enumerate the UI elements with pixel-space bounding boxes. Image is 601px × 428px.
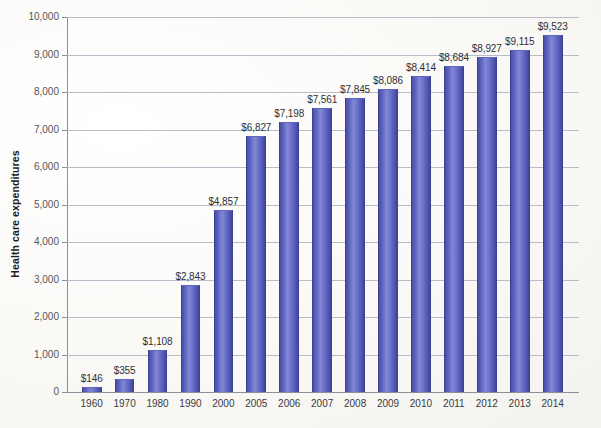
bar-value-label: $1,108	[134, 336, 180, 347]
bar-value-label: $4,857	[200, 196, 246, 207]
bar[interactable]	[312, 108, 332, 392]
y-axis-tick	[62, 130, 67, 131]
bar[interactable]	[279, 122, 299, 392]
bar-value-label: $7,198	[266, 108, 312, 119]
y-axis-title: Health care expenditures	[6, 0, 24, 428]
bar-top-edge	[313, 108, 331, 109]
bar[interactable]	[543, 35, 563, 392]
y-tick-label: 1,000	[13, 349, 59, 360]
gridline	[67, 92, 579, 93]
bar[interactable]	[510, 50, 530, 392]
x-tick-label: 2014	[531, 398, 574, 409]
gridline	[67, 55, 579, 56]
bar[interactable]	[214, 210, 234, 392]
y-tick-label: 9,000	[13, 49, 59, 60]
y-axis-tick	[62, 355, 67, 356]
bar-value-label: $2,843	[167, 271, 213, 282]
gridline	[67, 17, 579, 18]
y-tick-label: 5,000	[13, 199, 59, 210]
bar-top-edge	[445, 66, 463, 67]
bar-value-label: $8,414	[398, 62, 444, 73]
bar[interactable]	[181, 285, 201, 392]
y-tick-label: 4,000	[13, 236, 59, 247]
bar-top-edge	[280, 122, 298, 123]
bar[interactable]	[246, 136, 266, 392]
bar-value-label: $7,561	[299, 94, 345, 105]
y-axis-tick	[62, 317, 67, 318]
y-tick-label: 6,000	[13, 161, 59, 172]
bar-value-label: $9,523	[530, 21, 576, 32]
bar[interactable]	[444, 66, 464, 392]
bar[interactable]	[115, 379, 135, 392]
y-tick-label: 0	[13, 386, 59, 397]
bar-top-edge	[182, 285, 200, 286]
bar-top-edge	[83, 387, 101, 388]
y-tick-label: 7,000	[13, 124, 59, 135]
y-axis-tick	[62, 392, 67, 393]
y-tick-label: 8,000	[13, 86, 59, 97]
bar-value-label: $9,115	[497, 36, 543, 47]
bar[interactable]	[82, 387, 102, 392]
y-tick-label: 3,000	[13, 274, 59, 285]
y-axis-tick	[62, 242, 67, 243]
bar-top-edge	[379, 89, 397, 90]
bar-top-edge	[247, 136, 265, 137]
bar-top-edge	[149, 350, 167, 351]
y-axis-tick	[62, 205, 67, 206]
y-tick-label: 2,000	[13, 311, 59, 322]
bar-top-edge	[412, 76, 430, 77]
plot-area: 01,0002,0003,0004,0005,0006,0007,0008,00…	[67, 17, 579, 392]
bar-top-edge	[346, 98, 364, 99]
y-axis-tick	[62, 167, 67, 168]
x-axis-line	[67, 392, 579, 393]
y-axis-tick	[62, 55, 67, 56]
bar-top-edge	[116, 379, 134, 380]
bar-chart: Health care expenditures 01,0002,0003,00…	[0, 0, 601, 428]
bar-top-edge	[215, 210, 233, 211]
bar-value-label: $8,086	[365, 75, 411, 86]
bar[interactable]	[477, 57, 497, 392]
bar[interactable]	[148, 350, 168, 392]
y-tick-label: 10,000	[13, 11, 59, 22]
bar-top-edge	[511, 50, 529, 51]
y-axis-tick	[62, 92, 67, 93]
y-axis-tick	[62, 280, 67, 281]
bar[interactable]	[345, 98, 365, 392]
bar-value-label: $6,827	[233, 122, 279, 133]
bar-value-label: $355	[102, 365, 148, 376]
bar[interactable]	[411, 76, 431, 392]
bar[interactable]	[378, 89, 398, 392]
y-axis-tick	[62, 17, 67, 18]
bar-top-edge	[478, 57, 496, 58]
bar-top-edge	[544, 35, 562, 36]
